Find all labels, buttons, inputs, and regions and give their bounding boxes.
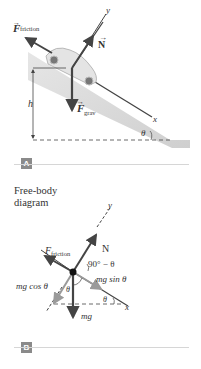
mg-sin-label: mg sin θ	[96, 274, 127, 284]
svg-text:→: →	[77, 98, 84, 106]
incline-diagram: x y N → F friction → F grav → h θ	[0, 0, 201, 175]
mg-label: mg	[81, 311, 92, 321]
panel-b-free-body-diagram: Free-body diagram y x N F friction mg si	[0, 175, 201, 369]
svg-text:grav: grav	[84, 109, 96, 116]
x-axis-label: x	[124, 302, 129, 312]
complement-angle-label: 90° − θ	[88, 259, 115, 269]
free-body-diagram: y x N F friction mg sin θ mg cos θ mg θ …	[0, 175, 201, 369]
mg-cos-arrow	[54, 272, 73, 303]
friction-arrow	[45, 256, 73, 272]
friction-arrow	[26, 38, 52, 53]
svg-text:friction: friction	[51, 250, 71, 257]
x-axis-label: x	[152, 114, 157, 124]
divider	[14, 347, 189, 348]
theta-inner-label: θ	[66, 285, 70, 294]
svg-text:→: →	[13, 19, 20, 27]
svg-text:→: →	[99, 33, 107, 42]
panel-a-car-on-incline: x y N → F friction → F grav → h θ A	[0, 0, 201, 175]
divider	[14, 164, 189, 165]
y-axis-label: y	[105, 5, 110, 15]
height-label: h	[28, 98, 33, 109]
y-axis-label: y	[107, 200, 112, 210]
svg-text:friction: friction	[20, 25, 40, 32]
mg-cos-label: mg cos θ	[16, 281, 48, 291]
normal-force-label: N	[102, 243, 109, 254]
theta-x-label: θ	[103, 295, 107, 304]
angle-label: θ	[141, 128, 146, 138]
object-point	[70, 269, 77, 276]
